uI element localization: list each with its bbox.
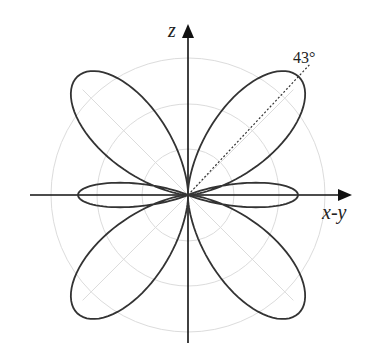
- xy-axis-label: x-y: [322, 202, 346, 222]
- radiation-pattern-figure: z x-y 43°: [0, 0, 367, 362]
- horizontal-axis-arrow-icon: [338, 189, 352, 201]
- axes: [30, 24, 352, 343]
- angle-label: 43°: [293, 50, 315, 66]
- vertical-axis-arrow-icon: [182, 24, 194, 38]
- z-axis-label: z: [168, 20, 176, 40]
